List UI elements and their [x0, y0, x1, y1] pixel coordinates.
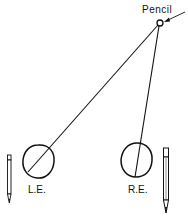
- right-eye-label: R.E.: [128, 184, 147, 195]
- right-eye-circle: [121, 143, 152, 177]
- left-eye-circle: [23, 145, 54, 178]
- left-eye-label: L.E.: [28, 184, 46, 195]
- left-eye-sightline: [28, 25, 158, 172]
- binocular-diagram: Pencil L.E. R.E.: [0, 0, 188, 221]
- pencil-label: Pencil: [142, 4, 172, 15]
- right-pencil-icon: [164, 148, 169, 213]
- left-pencil-icon: [8, 155, 12, 203]
- right-eye-sightline: [135, 26, 159, 177]
